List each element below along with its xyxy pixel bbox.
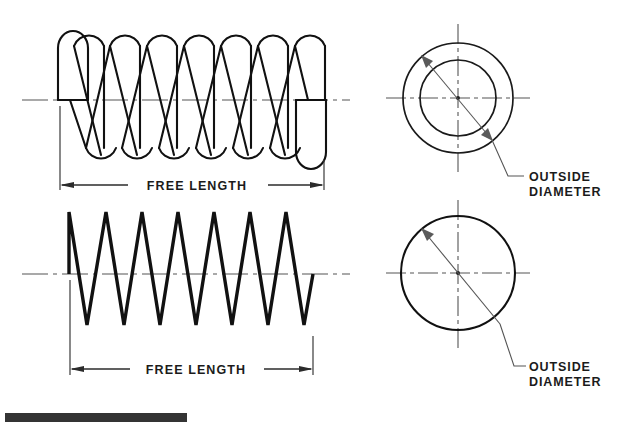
outside-diameter-label-top-line2: DIAMETER xyxy=(529,185,601,199)
free-length-label-bottom: FREE LENGTH xyxy=(146,363,246,377)
drawing-sheet: FREE LENGTH FREE LENGTH xyxy=(0,0,632,428)
technical-drawing-canvas: FREE LENGTH FREE LENGTH xyxy=(0,0,632,428)
outside-diameter-label-top-line1: OUTSIDE xyxy=(529,170,591,184)
black-redaction-bar xyxy=(5,413,187,422)
outside-diameter-label-bottom-line1: OUTSIDE xyxy=(529,360,591,374)
outside-diameter-label-bottom-line2: DIAMETER xyxy=(529,375,601,389)
free-length-label-top: FREE LENGTH xyxy=(147,179,247,193)
